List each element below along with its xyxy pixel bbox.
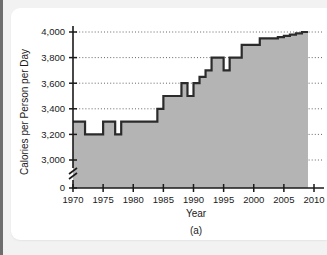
y-tick-label-3,600: 3,600 — [41, 78, 65, 89]
y-tick-labels: 3,0003,2003,4003,6003,8004,0000 — [41, 26, 65, 193]
x-axis-title: Year — [186, 208, 207, 219]
page-left-rule — [0, 0, 3, 255]
x-tick-label-1990: 1990 — [183, 194, 204, 205]
x-tick-label-1985: 1985 — [153, 194, 174, 205]
x-tick-label-1995: 1995 — [213, 194, 234, 205]
y-tick-label-3,200: 3,200 — [41, 129, 65, 140]
y-tick-label-zero: 0 — [60, 182, 65, 193]
figure-card: 3,0003,2003,4003,6003,8004,0000 19701975… — [11, 8, 327, 240]
y-tick-label-3,800: 3,800 — [41, 52, 65, 63]
calories-per-person-area-chart: 3,0003,2003,4003,6003,8004,0000 19701975… — [11, 8, 327, 240]
x-tick-label-2000: 2000 — [243, 194, 264, 205]
x-tick-label-1975: 1975 — [93, 194, 114, 205]
figure-caption: (a) — [190, 225, 202, 236]
x-tick-label-1970: 1970 — [62, 194, 83, 205]
area-series-fill — [73, 32, 308, 188]
x-tick-label-1980: 1980 — [123, 194, 144, 205]
x-tick-labels: 197019751980198519901995200020052010 — [62, 194, 324, 205]
y-axis-title: Calories per Person per Day — [19, 49, 30, 175]
series-area-fill — [73, 32, 308, 188]
x-tick-label-2010: 2010 — [303, 194, 324, 205]
chart-plot-area: 3,0003,2003,4003,6003,8004,0000 19701975… — [11, 8, 327, 240]
x-tick-label-2005: 2005 — [273, 194, 294, 205]
y-tick-label-3,000: 3,000 — [41, 154, 65, 165]
y-tick-label-4,000: 4,000 — [41, 26, 65, 37]
y-tick-label-3,400: 3,400 — [41, 103, 65, 114]
